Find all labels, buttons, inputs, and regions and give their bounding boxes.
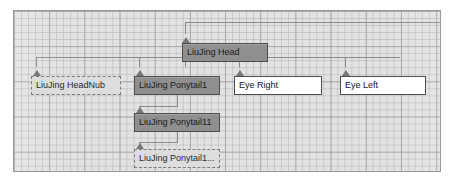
- node-liujing-ponytail11[interactable]: LiuJing Ponytail11: [134, 113, 220, 132]
- node-label-liujing-headnub: LiuJing HeadNub: [36, 80, 105, 90]
- wire-chain-bus-11: [139, 106, 178, 107]
- node-eye-right[interactable]: Eye Right: [234, 76, 322, 95]
- hierarchy-graph-view: LiuJing Head LiuJing HeadNub LiuJing Pon…: [0, 0, 455, 187]
- wire-chain-bus-trunc: [139, 142, 178, 143]
- triangle-handle-icon-eye-left[interactable]: [342, 70, 350, 76]
- node-eye-left[interactable]: Eye Left: [340, 76, 426, 95]
- wire-drop-ponytail1: [139, 57, 140, 67]
- hierarchy-graph-canvas[interactable]: LiuJing Head LiuJing HeadNub LiuJing Pon…: [13, 10, 441, 172]
- wire-top-bus: [185, 22, 441, 23]
- node-label-eye-right: Eye Right: [239, 80, 278, 90]
- node-liujing-ponytail1-truncated[interactable]: LiuJing Ponytail1...: [134, 149, 220, 168]
- wire-drop-eye-left: [345, 57, 346, 67]
- node-label-liujing-head: LiuJing Head: [187, 47, 240, 57]
- node-label-liujing-ponytail1: LiuJing Ponytail1: [139, 80, 207, 90]
- triangle-handle-icon-ponytail11[interactable]: [136, 107, 144, 113]
- node-liujing-ponytail1[interactable]: LiuJing Ponytail1: [134, 76, 220, 95]
- node-liujing-headnub[interactable]: LiuJing HeadNub: [31, 76, 121, 95]
- triangle-handle-icon-eye-right[interactable]: [236, 70, 244, 76]
- wire-drop-headnub: [36, 57, 37, 67]
- node-label-eye-left: Eye Left: [345, 80, 378, 90]
- triangle-handle-icon-head[interactable]: [182, 37, 190, 43]
- node-liujing-head[interactable]: LiuJing Head: [182, 43, 268, 62]
- wire-top-bus-drop: [185, 22, 186, 34]
- node-label-liujing-ponytail11: LiuJing Ponytail11: [139, 117, 211, 127]
- triangle-handle-icon-ponytail1[interactable]: [136, 70, 144, 76]
- triangle-handle-icon-ponytail-trunc[interactable]: [136, 143, 144, 149]
- triangle-handle-icon-headnub[interactable]: [33, 70, 41, 76]
- node-label-liujing-ponytail1-truncated: LiuJing Ponytail1...: [139, 153, 215, 163]
